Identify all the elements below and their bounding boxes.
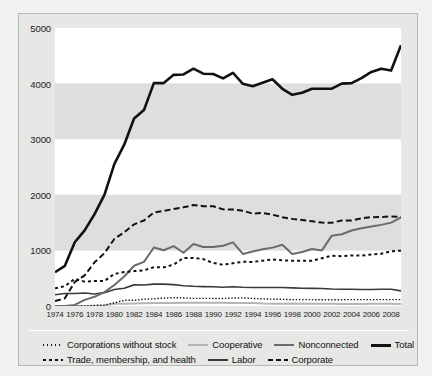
legend-label-labor: Labor — [232, 354, 256, 365]
x-axis-tick-label: 1980 — [106, 310, 123, 319]
x-axis-tick-label: 2002 — [323, 310, 340, 319]
legend-swatch-corporate — [268, 355, 288, 364]
legend-swatch-cooperative — [188, 340, 208, 349]
x-axis-tick-label: 2008 — [383, 310, 400, 319]
legend-swatch-nonconnected — [274, 340, 294, 349]
x-axis-tick-label: 1978 — [86, 310, 103, 319]
x-axis-labels: 1974197619781980198219841986198819901992… — [55, 310, 401, 324]
legend-row-2: Trade, membership, and healthLaborCorpor… — [29, 352, 409, 367]
x-axis-tick-label: 1994 — [244, 310, 261, 319]
y-axis-labels: 010002000300040005000 — [19, 28, 51, 306]
legend-label-corporations-without-stock: Corporations without stock — [67, 339, 176, 350]
legend-item-nonconnected[interactable]: Nonconnected — [274, 339, 358, 350]
y-axis-tick-label: 1000 — [30, 245, 51, 256]
legend-item-trade-membership-and-health[interactable]: Trade, membership, and health — [43, 354, 196, 365]
plot-area — [55, 28, 401, 306]
y-axis-tick-label: 4000 — [30, 78, 51, 89]
x-axis-tick-label: 1986 — [165, 310, 182, 319]
legend-swatch-trade-membership-and-health — [43, 355, 63, 364]
legend-label-total: Total — [395, 339, 415, 350]
legend-item-corporate[interactable]: Corporate — [268, 354, 333, 365]
y-axis-tick-label: 2000 — [30, 189, 51, 200]
legend-swatch-total — [371, 340, 391, 349]
x-axis-tick-label: 1984 — [145, 310, 162, 319]
x-axis-tick-label: 1992 — [224, 310, 241, 319]
y-axis-tick-label: 5000 — [30, 23, 51, 34]
legend-label-trade-membership-and-health: Trade, membership, and health — [67, 354, 196, 365]
x-axis-tick-label: 1990 — [205, 310, 222, 319]
x-axis-tick-label: 1982 — [126, 310, 143, 319]
x-axis-tick-label: 1974 — [47, 310, 64, 319]
x-axis-tick-label: 1998 — [284, 310, 301, 319]
legend-item-corporations-without-stock[interactable]: Corporations without stock — [43, 339, 176, 350]
y-axis-tick-label: 3000 — [30, 134, 51, 145]
legend-item-total[interactable]: Total — [371, 339, 415, 350]
chart-figure: 010002000300040005000 197419761978198019… — [18, 13, 418, 366]
chart-legend: Corporations without stockCooperativeNon… — [29, 330, 409, 361]
x-axis-tick-label: 2000 — [304, 310, 321, 319]
legend-item-cooperative[interactable]: Cooperative — [188, 339, 262, 350]
legend-swatch-labor — [208, 355, 228, 364]
legend-item-labor[interactable]: Labor — [208, 354, 256, 365]
legend-swatch-corporations-without-stock — [43, 340, 63, 349]
x-axis-tick-label: 1996 — [264, 310, 281, 319]
x-axis-tick-label: 1976 — [66, 310, 83, 319]
x-axis-tick-label: 2004 — [343, 310, 360, 319]
legend-label-nonconnected: Nonconnected — [298, 339, 358, 350]
x-axis-tick-label: 1988 — [185, 310, 202, 319]
legend-label-corporate: Corporate — [292, 354, 333, 365]
legend-label-cooperative: Cooperative — [212, 339, 262, 350]
legend-row-1: Corporations without stockCooperativeNon… — [29, 337, 409, 352]
x-axis-tick-label: 2006 — [363, 310, 380, 319]
